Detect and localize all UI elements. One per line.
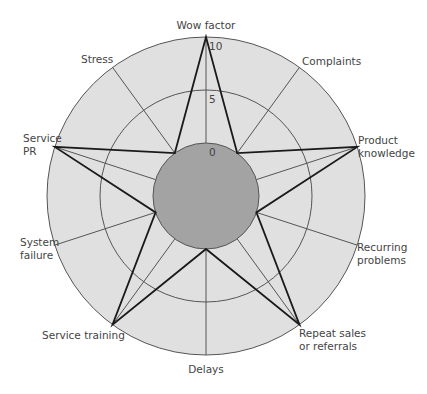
axis-label: Wow factor [177,19,237,31]
axis-label: Stress [81,53,113,65]
axis-label: Service training [42,329,125,341]
axis-label: Delays [188,363,224,375]
inner-disc [153,143,259,249]
axis-label: Productknowledge [358,134,415,159]
tick-label: 0 [209,146,216,158]
axis-label: Systemfailure [20,236,59,261]
radar-chart: 0510 Wow factorComplaintsProductknowledg… [0,0,427,394]
tick-label: 10 [209,40,222,52]
axis-label: Recurringproblems [357,241,407,266]
tick-label: 5 [209,93,216,105]
axis-label: Repeat salesor referrals [299,327,366,352]
axis-label: Complaints [302,55,361,67]
